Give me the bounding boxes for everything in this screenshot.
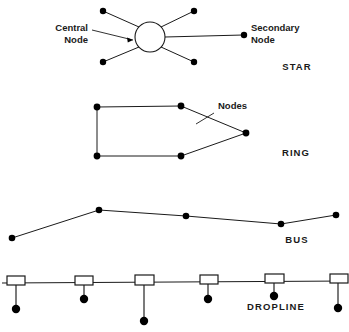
central-node-arrowhead-icon — [127, 38, 133, 43]
dropline-station-dot-5 — [334, 304, 342, 312]
bus-node-dot-2 — [183, 213, 190, 220]
dropline-station-dot-3 — [204, 295, 212, 303]
central-node-circle — [135, 22, 165, 52]
secondary-node-label-line1: Secondary — [251, 22, 300, 33]
star-spoke-3 — [161, 47, 194, 62]
topology-figure-canvas: Central Node Secondary Node STAR Nodes R… — [0, 0, 349, 332]
ring-node-dots — [94, 103, 250, 160]
dropline-tap-box-5 — [330, 274, 348, 283]
star-spoke-lines — [103, 11, 243, 62]
bus-node-dot-0 — [9, 235, 16, 242]
star-node-dot-2 — [100, 59, 106, 65]
star-topology-group: Central Node Secondary Node STAR — [55, 8, 312, 72]
star-node-dot-1 — [191, 8, 197, 14]
dropline-tap-box-2 — [135, 275, 154, 285]
dropline-tap-box-0 — [7, 276, 25, 285]
dropline-station-dot-1 — [80, 295, 88, 303]
nodes-label: Nodes — [218, 100, 247, 111]
central-node-leader-line — [92, 30, 133, 40]
dropline-tap-boxes — [7, 274, 348, 285]
bus-node-dot-4 — [333, 212, 340, 219]
ring-node-dot-1 — [178, 103, 185, 110]
dropline-station-dot-0 — [12, 305, 20, 313]
topology-name-bus: BUS — [285, 234, 308, 245]
ring-node-dot-3 — [178, 153, 185, 160]
star-node-dot-4 — [241, 32, 247, 38]
dropline-station-dot-2 — [140, 317, 148, 325]
star-spoke-1 — [161, 11, 194, 27]
dropline-tap-box-1 — [75, 276, 93, 285]
topology-name-dropline: DROPLINE — [247, 301, 305, 312]
star-spoke-4 — [165, 35, 243, 37]
dropline-station-dot-4 — [270, 292, 278, 300]
ring-node-dot-4 — [94, 153, 101, 160]
dropline-tap-box-4 — [265, 274, 284, 283]
ring-link-path — [97, 106, 246, 156]
network-topology-diagram: Central Node Secondary Node STAR Nodes R… — [0, 0, 349, 332]
ring-topology-group: Nodes RING — [94, 100, 310, 159]
central-node-label-line1: Central — [55, 22, 88, 33]
topology-name-ring: RING — [282, 147, 310, 158]
ring-node-dot-2 — [243, 130, 250, 137]
bus-node-dot-3 — [278, 221, 285, 228]
dropline-topology-group: DROPLINE — [2, 274, 348, 325]
dropline-tap-box-3 — [200, 275, 218, 284]
ring-node-dot-0 — [94, 104, 101, 111]
bus-topology-group: BUS — [9, 207, 340, 245]
star-spoke-0 — [103, 11, 139, 27]
dropline-trunk-path — [2, 281, 347, 283]
secondary-node-label-line2: Node — [251, 34, 275, 45]
star-node-dot-3 — [191, 59, 197, 65]
star-node-dot-0 — [100, 8, 106, 14]
star-spoke-2 — [103, 47, 139, 62]
central-node-label-line2: Node — [64, 34, 88, 45]
topology-name-star: STAR — [282, 61, 312, 72]
bus-node-dot-1 — [96, 207, 103, 214]
